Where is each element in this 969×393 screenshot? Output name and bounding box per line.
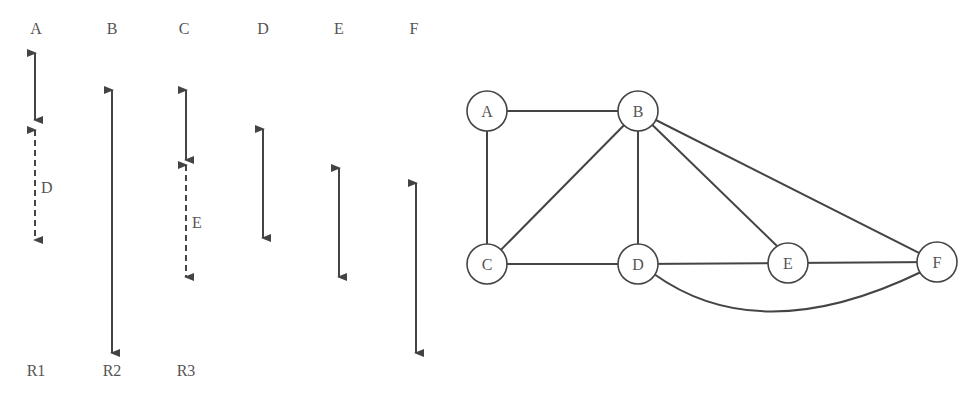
node-label-e: E — [783, 255, 793, 272]
row-label-r1: R1 — [27, 362, 46, 379]
node-label-a: A — [481, 103, 493, 120]
row-label-r3: R3 — [177, 362, 196, 379]
node-d: D — [618, 244, 658, 284]
column-header-d: D — [257, 20, 269, 37]
interval-label-e: E — [192, 214, 202, 231]
edge-b-e — [638, 111, 778, 247]
row-label-r2: R2 — [103, 362, 122, 379]
column-headers: A B C D E F — [30, 20, 418, 37]
node-c: C — [467, 244, 507, 284]
column-header-a: A — [30, 20, 42, 37]
column-header-b: B — [107, 20, 118, 37]
graph-nodes: A B C D E F — [467, 91, 957, 284]
node-label-c: C — [482, 256, 493, 273]
node-label-b: B — [633, 103, 644, 120]
node-a: A — [467, 91, 507, 131]
edge-b-c — [487, 111, 638, 264]
edge-d-e — [638, 263, 788, 264]
edge-b-f — [638, 111, 937, 262]
node-label-d: D — [632, 256, 644, 273]
edge-e-f — [788, 262, 937, 263]
row-labels: R1 R2 R3 — [27, 362, 196, 379]
interval-arrows: D E — [35, 53, 416, 353]
column-header-e: E — [334, 20, 344, 37]
graph-edges — [487, 111, 937, 312]
column-header-f: F — [410, 20, 419, 37]
node-label-f: F — [933, 254, 942, 271]
column-header-c: C — [179, 20, 190, 37]
interval-label-d: D — [41, 179, 53, 196]
node-f: F — [917, 242, 957, 282]
node-b: B — [618, 91, 658, 131]
node-e: E — [768, 243, 808, 283]
diagram-canvas: A B C D E F D E R1 R2 R3 — [0, 0, 969, 393]
